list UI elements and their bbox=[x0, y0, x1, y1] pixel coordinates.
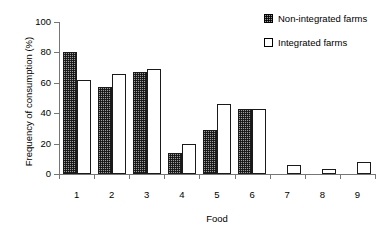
bar-1-series-1 bbox=[63, 52, 77, 174]
x-tick-label: 5 bbox=[200, 189, 234, 200]
bar-4-series-1 bbox=[168, 153, 182, 174]
bar-9-series-2 bbox=[357, 162, 371, 174]
bar-7-series-2 bbox=[287, 165, 301, 174]
x-tick-label: 6 bbox=[235, 189, 269, 200]
plot-area: 020406080100 123456789 bbox=[59, 22, 375, 174]
bar-2-series-1 bbox=[98, 87, 112, 174]
bar-3-series-2 bbox=[147, 69, 161, 174]
x-tick-label: 1 bbox=[60, 189, 94, 200]
x-tick-label: 8 bbox=[305, 189, 339, 200]
bar-6-series-1 bbox=[238, 109, 252, 174]
x-tick-mark bbox=[129, 174, 130, 179]
x-tick-mark bbox=[270, 174, 271, 179]
x-tick-label: 9 bbox=[340, 189, 374, 200]
x-tick-label: 4 bbox=[165, 189, 199, 200]
x-tick-mark bbox=[235, 174, 236, 179]
bar-5-series-1 bbox=[203, 130, 217, 174]
x-axis-title: Food bbox=[59, 213, 375, 224]
y-tick-label: 40 bbox=[11, 108, 51, 118]
y-tick-label: 80 bbox=[11, 47, 51, 57]
bar-2-series-2 bbox=[112, 74, 126, 174]
y-tick-label: 20 bbox=[11, 139, 51, 149]
bar-1-series-2 bbox=[77, 80, 91, 174]
bar-5-series-2 bbox=[217, 104, 231, 174]
bars-layer bbox=[59, 22, 375, 174]
y-axis-title: Frequency of consumption (%) bbox=[23, 22, 34, 182]
x-tick-mark bbox=[305, 174, 306, 179]
x-tick-mark bbox=[164, 174, 165, 179]
x-tick-label: 3 bbox=[130, 189, 164, 200]
bar-4-series-2 bbox=[182, 144, 196, 174]
y-tick-label: 60 bbox=[11, 78, 51, 88]
bar-3-series-1 bbox=[133, 72, 147, 174]
bar-chart: Non-integrated farms Integrated farms Fr… bbox=[0, 0, 386, 241]
y-tick-label: 0 bbox=[11, 169, 51, 179]
bar-6-series-2 bbox=[252, 109, 266, 174]
x-tick-mark bbox=[199, 174, 200, 179]
x-axis-line bbox=[59, 174, 375, 175]
x-tick-mark bbox=[59, 174, 60, 179]
x-tick-label: 7 bbox=[270, 189, 304, 200]
x-tick-mark bbox=[340, 174, 341, 179]
x-tick-label: 2 bbox=[95, 189, 129, 200]
y-tick-label: 100 bbox=[11, 17, 51, 27]
bar-8-series-2 bbox=[322, 169, 336, 174]
x-tick-mark bbox=[375, 174, 376, 179]
x-tick-mark bbox=[94, 174, 95, 179]
